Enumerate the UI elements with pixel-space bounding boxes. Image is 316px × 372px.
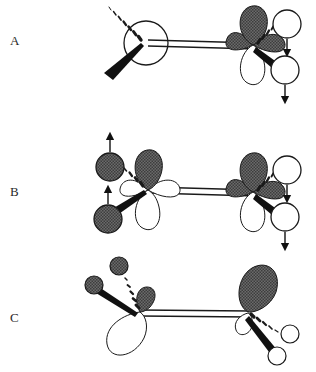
shaded-circle-b-2 bbox=[94, 205, 122, 233]
open-circle-a-2 bbox=[271, 56, 299, 84]
shaded-circle-b-1 bbox=[96, 153, 124, 181]
open-circle-b-3 bbox=[273, 156, 301, 184]
panel-label-b: B bbox=[10, 184, 19, 200]
diagram-canvas bbox=[0, 0, 316, 372]
shaded-circle-c-1 bbox=[110, 257, 128, 275]
open-circle-a-1 bbox=[273, 10, 301, 38]
orbital-diagram-figure: A B C bbox=[0, 0, 316, 372]
open-circle-c-3 bbox=[281, 325, 299, 343]
panel-label-a: A bbox=[10, 33, 19, 49]
open-circle-b-4 bbox=[271, 203, 299, 231]
shaded-circle-c-2 bbox=[85, 276, 103, 294]
open-circle-c-4 bbox=[268, 347, 286, 365]
panel-label-c: C bbox=[10, 310, 19, 326]
